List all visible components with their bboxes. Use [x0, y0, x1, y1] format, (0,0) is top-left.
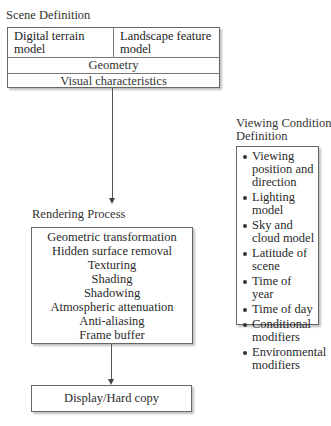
geometry-row: Geometry [8, 58, 219, 74]
connector-render-to-display [111, 344, 112, 380]
scene-definition-box: Digital terrain model Landscape feature … [7, 27, 220, 88]
render-step: Anti-aliasing [32, 314, 192, 328]
viewing-condition-box: Viewing position and direction Lighting … [236, 146, 319, 325]
viewing-condition-item: Viewing position and direction [243, 150, 316, 189]
viewing-condition-item: Sky and cloud model [243, 219, 316, 245]
visual-characteristics-row: Visual characteristics [8, 74, 219, 89]
scene-models-row: Digital terrain model Landscape feature … [8, 28, 219, 58]
viewing-condition-item: Time of year [243, 275, 316, 301]
display-hard-copy-box: Display/Hard copy [31, 385, 192, 412]
render-step: Frame buffer [32, 328, 192, 342]
render-step: Atmospheric attenuation [32, 300, 192, 314]
bullet-icon [243, 196, 247, 200]
bullet-icon [243, 280, 247, 284]
connector-scene-to-render [112, 88, 113, 200]
bullet-icon [243, 323, 247, 327]
render-step: Geometric transformation [32, 230, 192, 244]
bullet-icon [243, 224, 247, 228]
landscape-feature-model-cell: Landscape feature model [114, 28, 219, 57]
bullet-icon [243, 308, 247, 312]
scene-definition-title: Scene Definition [6, 8, 90, 22]
bullet-icon [243, 155, 247, 159]
bullet-icon [243, 252, 247, 256]
render-step: Shadowing [32, 286, 192, 300]
viewing-condition-item: Latitude of scene [243, 247, 316, 273]
arrow-down-icon [109, 198, 115, 204]
viewing-condition-title-line2: Definition [236, 129, 287, 143]
digital-terrain-model-cell: Digital terrain model [8, 28, 114, 57]
viewing-condition-title-line1: Viewing Condition [236, 116, 331, 130]
render-step: Hidden surface removal [32, 244, 192, 258]
viewing-condition-item: Time of day [243, 303, 316, 316]
render-step: Texturing [32, 258, 192, 272]
viewing-condition-item: Conditional modifiers [243, 318, 316, 344]
viewing-condition-item: Lighting model [243, 191, 316, 217]
rendering-process-title: Rendering Process [32, 207, 125, 221]
bullet-icon [243, 351, 247, 355]
render-step: Shading [32, 272, 192, 286]
rendering-process-box: Geometric transformation Hidden surface … [31, 227, 193, 344]
viewing-condition-item: Environmental modifiers [243, 346, 316, 372]
